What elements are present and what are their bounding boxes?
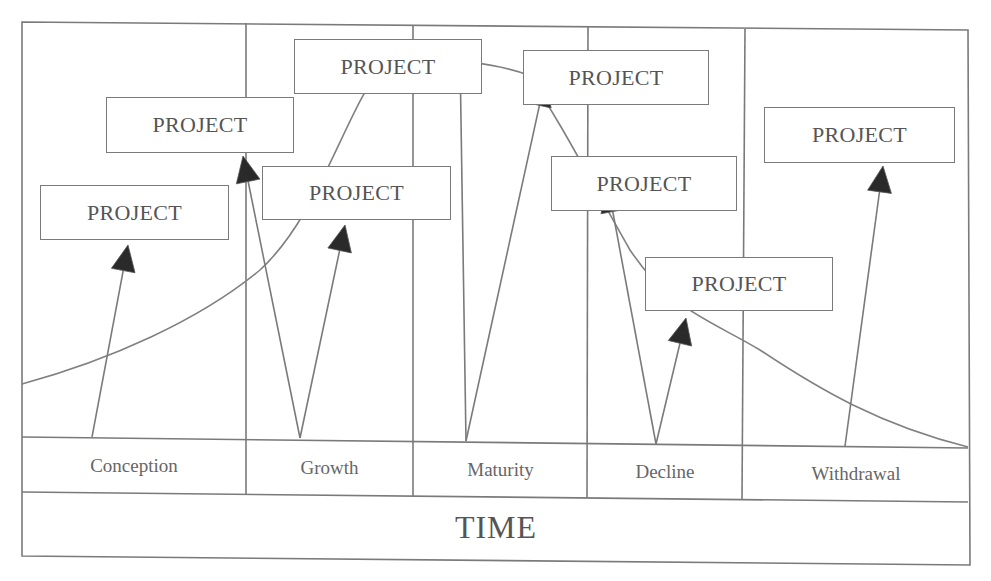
arrow-shaft	[613, 212, 656, 444]
project-box: PROJECT	[551, 156, 737, 211]
stage-label-conception: Conception	[22, 440, 246, 492]
project-box: PROJECT	[645, 257, 833, 311]
project-box: PROJECT	[40, 185, 229, 240]
stage-label-withdrawal: Withdrawal	[742, 448, 970, 500]
time-axis-label: TIME	[22, 496, 970, 558]
project-box: PROJECT	[523, 50, 709, 105]
project-box: PROJECT	[294, 39, 482, 94]
arrow-shaft	[466, 105, 539, 441]
arrow-shaft	[300, 250, 340, 438]
project-box: PROJECT	[106, 97, 294, 153]
arrowhead-icon	[868, 166, 892, 193]
stage-label-growth: Growth	[246, 442, 413, 494]
arrowhead-icon	[328, 225, 351, 253]
arrowhead-icon	[668, 318, 691, 346]
arrow-shaft	[92, 271, 123, 437]
project-box: PROJECT	[764, 107, 955, 163]
project-box: PROJECT	[262, 166, 451, 220]
stage-label-maturity: Maturity	[413, 444, 588, 496]
arrowhead-icon	[111, 245, 135, 273]
arrow-shaft	[656, 343, 680, 444]
arrowhead-icon	[236, 156, 260, 184]
arrow-shaft	[460, 82, 466, 441]
arrow-shaft	[845, 192, 880, 446]
stage-label-decline: Decline	[588, 446, 742, 498]
